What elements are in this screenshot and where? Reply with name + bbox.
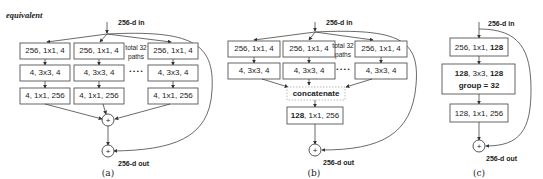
paths-note: total 32	[125, 44, 147, 51]
group-label: group = 32	[459, 81, 500, 90]
output-label: 256-d out	[486, 155, 518, 162]
equivalent-label: equivalent	[6, 10, 43, 20]
output-label: 256-d out	[118, 160, 150, 167]
panel-c: 256-d in 256, 1x1, 128 128, 3x3, 128 gro…	[442, 20, 531, 178]
layer-label: 128, 1x1, 256	[291, 111, 340, 120]
layer-label: 256, 1x1, 4	[79, 46, 119, 55]
layer-label: 4, 3x3, 4	[294, 66, 325, 75]
plus-icon: +	[477, 142, 482, 151]
plus-icon: +	[313, 146, 318, 155]
paths-note: paths	[128, 53, 145, 61]
path-column-1: 256, 1x1, 4 4, 3x3, 4	[228, 41, 288, 87]
paths-note: paths	[335, 51, 352, 59]
layer-label: 256, 1x1, 4	[234, 44, 274, 53]
layer-label: 256, 1x1, 4	[153, 46, 193, 55]
layer-label: 4, 1x1, 256	[25, 91, 65, 100]
layer-label: 128, 3x3, 128	[455, 69, 504, 78]
layer-label: 4, 3x3, 4	[366, 66, 397, 75]
caption-a: (a)	[102, 168, 114, 178]
ellipsis: • • • •	[336, 66, 349, 72]
input-label: 256-d in	[118, 19, 144, 26]
path-column-2: 256, 1x1, 4 4, 3x3, 4 4, 1x1, 256	[74, 43, 124, 114]
caption-c: (c)	[473, 168, 485, 178]
panel-a: 256-d in 256, 1x1, 4 4, 3x3, 4 4, 1x1, 2…	[20, 19, 212, 178]
plus-icon: +	[106, 147, 111, 156]
path-column-2: 256, 1x1, 4 4, 3x3, 4	[283, 41, 335, 85]
plus-icon: +	[106, 116, 111, 125]
path-column-3: 256, 1x1, 4 4, 3x3, 4	[346, 41, 407, 87]
layer-label: 4, 1x1, 256	[79, 91, 119, 100]
layer-label: 4, 3x3, 4	[84, 68, 115, 77]
layer-label: 128, 1x1, 256	[455, 109, 504, 118]
caption-b: (b)	[308, 168, 321, 178]
ellipsis: • • • •	[129, 68, 142, 74]
layer-label: 256, 1x1, 128	[455, 43, 504, 52]
output-label: 256-d out	[323, 159, 355, 166]
resnext-block-diagram: equivalent 256-d in 256, 1x1, 4 4, 3x3, …	[0, 0, 543, 179]
layer-label: 256, 1x1, 4	[361, 44, 401, 53]
layer-label: 256, 1x1, 4	[289, 44, 329, 53]
layer-label: 256, 1x1, 4	[25, 46, 65, 55]
layer-label: 4, 3x3, 4	[158, 68, 189, 77]
input-label: 256-d in	[326, 19, 352, 26]
panel-b: 256-d in 256, 1x1, 4 4, 3x3, 4 256, 1x1,…	[228, 19, 416, 178]
layer-label: 4, 1x1, 256	[153, 91, 193, 100]
layer-label: 4, 3x3, 4	[239, 66, 270, 75]
layer-label: 4, 3x3, 4	[30, 68, 61, 77]
input-label: 256-d in	[488, 20, 514, 27]
concatenate-label: concatenate	[293, 89, 340, 98]
paths-note: total 32	[332, 42, 354, 49]
